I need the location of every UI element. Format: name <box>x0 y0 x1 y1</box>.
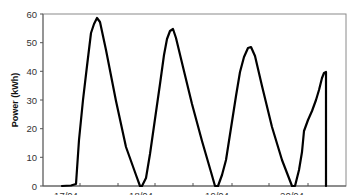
power-series-line <box>62 18 326 186</box>
y-tick-label: 40 <box>26 66 37 77</box>
x-tick-label: 18/04 <box>129 190 153 195</box>
y-tick-label: 50 <box>26 37 37 48</box>
x-tick-label: 19/04 <box>205 190 229 195</box>
y-tick-label: 10 <box>26 152 37 163</box>
y-tick-label: 0 <box>32 181 37 192</box>
y-axis-title: Power (kWh) <box>10 73 20 128</box>
y-tick-label: 60 <box>26 9 37 20</box>
y-tick-labels: 0 10 20 30 40 50 60 <box>26 9 37 192</box>
y-tick-label: 20 <box>26 123 37 134</box>
x-tick-label: 20/04 <box>280 190 304 195</box>
power-line-chart: 0 10 20 30 40 50 60 17/04 18/04 19/04 20… <box>0 0 360 195</box>
x-tick-label: 17/04 <box>54 190 78 195</box>
x-tick-labels: 17/04 18/04 19/04 20/04 <box>54 190 304 195</box>
y-tick-label: 30 <box>26 95 37 106</box>
